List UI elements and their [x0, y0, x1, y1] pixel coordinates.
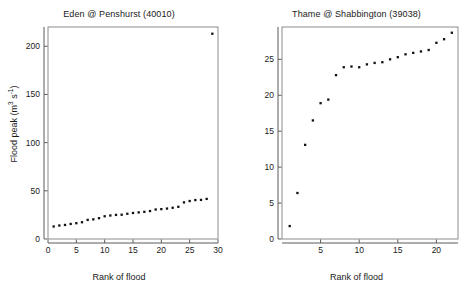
- svg-text:10: 10: [100, 245, 110, 255]
- scatter-plot-left: 051015202530050100150200: [0, 0, 238, 288]
- svg-text:150: 150: [26, 89, 40, 99]
- y-axis-title-left: Flood peak (m3 s-1): [7, 69, 19, 179]
- svg-text:0: 0: [46, 245, 51, 255]
- x-axis-title-right: Rank of flood: [238, 272, 475, 282]
- chart-panel-eden-penshurst: Eden @ Penshurst (40010) 051015202530050…: [0, 0, 238, 288]
- svg-text:0: 0: [35, 234, 40, 244]
- svg-text:5: 5: [269, 198, 274, 208]
- svg-text:15: 15: [393, 245, 403, 255]
- svg-text:10: 10: [265, 162, 275, 172]
- svg-text:15: 15: [128, 245, 138, 255]
- svg-text:30: 30: [213, 245, 223, 255]
- svg-text:0: 0: [269, 234, 274, 244]
- y-axis-title-left-mid: s: [9, 94, 19, 101]
- scatter-plot-right: 51015200510152025: [238, 0, 475, 288]
- svg-text:50: 50: [31, 186, 41, 196]
- chart-panel-thame-shabbington: Thame @ Shabbington (39038) 510152005101…: [238, 0, 475, 288]
- y-axis-title-left-sup2: -1: [7, 89, 14, 95]
- svg-text:20: 20: [265, 90, 275, 100]
- svg-text:25: 25: [265, 54, 275, 64]
- y-axis-title-left-suffix: ): [9, 86, 19, 89]
- svg-text:15: 15: [265, 126, 275, 136]
- svg-text:20: 20: [157, 245, 167, 255]
- svg-text:10: 10: [354, 245, 364, 255]
- svg-text:25: 25: [185, 245, 195, 255]
- svg-text:5: 5: [74, 245, 79, 255]
- y-axis-title-left-prefix: Flood peak (m: [9, 105, 19, 163]
- svg-text:200: 200: [26, 41, 40, 51]
- svg-text:100: 100: [26, 138, 40, 148]
- flood-frequency-figure: Eden @ Penshurst (40010) 051015202530050…: [0, 0, 475, 288]
- svg-text:5: 5: [318, 245, 323, 255]
- svg-text:20: 20: [432, 245, 442, 255]
- y-axis-title-left-sup1: 3: [7, 101, 14, 105]
- x-axis-title-left: Rank of flood: [0, 272, 238, 282]
